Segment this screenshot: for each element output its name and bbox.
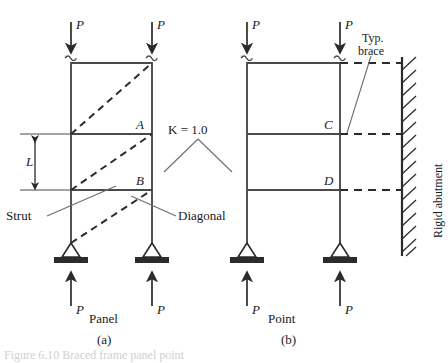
panel-b-reaction-left-label: P bbox=[252, 303, 260, 316]
panel-b-top-load-arrows bbox=[247, 22, 340, 48]
panel-b-load-left-label: P bbox=[252, 18, 260, 31]
panel-b-tag: (b) bbox=[281, 333, 296, 346]
joint-label-a: A bbox=[136, 118, 144, 131]
figure-canvas: P P A B L Strut Diagonal P P K = 1.0 P P… bbox=[0, 0, 448, 363]
figure-caption: Figure 6.10 Braced frame panel point bbox=[0, 348, 448, 362]
panel-b-load-right-label: P bbox=[345, 18, 353, 31]
panel-b-reaction-arrows bbox=[247, 277, 340, 306]
diagonal-label: Diagonal bbox=[178, 209, 226, 222]
panel-b-supports bbox=[230, 243, 357, 263]
panel-a-break-symbols bbox=[65, 56, 157, 61]
joint-label-b: B bbox=[136, 174, 144, 187]
panel-b-reaction-right-label: P bbox=[345, 303, 353, 316]
joint-label-d: D bbox=[324, 174, 333, 187]
k-value-leader bbox=[164, 139, 232, 172]
panel-b-caption: Point bbox=[268, 312, 295, 325]
panel-b-brace-leader bbox=[347, 56, 371, 133]
panel-a-diagonals bbox=[71, 63, 152, 243]
panel-a-reaction-left-label: P bbox=[76, 303, 84, 316]
k-value-label: K = 1.0 bbox=[168, 123, 207, 136]
typ-brace-label-line2: brace bbox=[358, 45, 384, 57]
panel-a-tag: (a) bbox=[97, 333, 111, 346]
panel-b-break-symbols bbox=[241, 56, 345, 61]
panel-b-columns bbox=[247, 62, 340, 243]
rigid-abutment-label: Rigid abutment bbox=[432, 164, 444, 238]
panel-a-reaction-right-label: P bbox=[157, 303, 165, 316]
joint-label-c: C bbox=[324, 118, 333, 131]
rigid-abutment bbox=[402, 57, 416, 256]
panel-b-group bbox=[230, 22, 416, 306]
panel-a-load-right-label: P bbox=[157, 18, 165, 31]
strut-label: Strut bbox=[6, 209, 31, 222]
panel-a-supports bbox=[54, 243, 169, 263]
panel-a-group bbox=[20, 22, 176, 306]
panel-a-caption: Panel bbox=[89, 312, 118, 325]
panel-a-load-left-label: P bbox=[76, 18, 84, 31]
typ-brace-label-line1: Typ. bbox=[362, 32, 384, 44]
dimension-label-L: L bbox=[26, 155, 33, 168]
